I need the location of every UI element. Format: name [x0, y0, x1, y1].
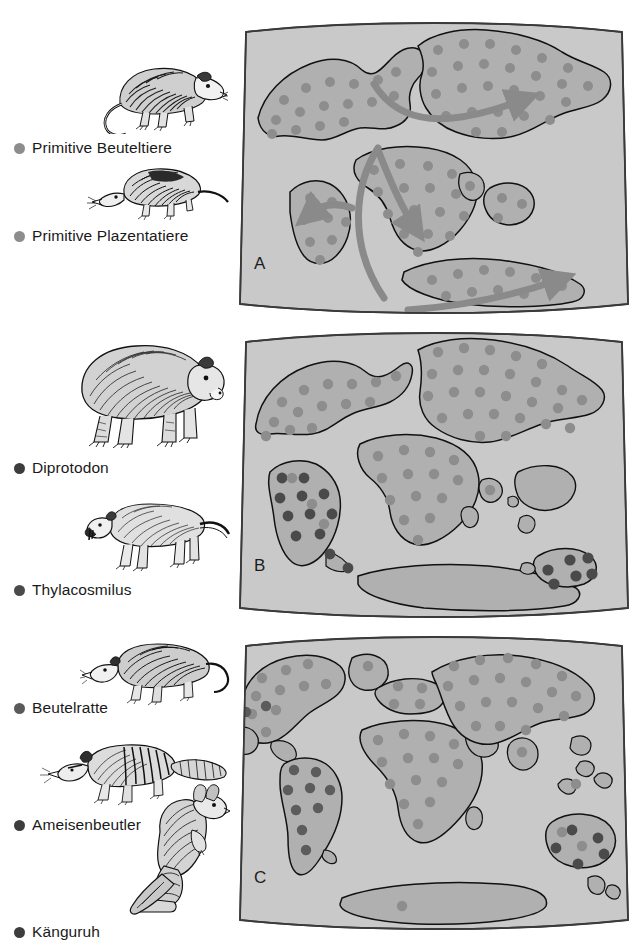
map-panel-c: C [232, 634, 636, 930]
legend-bullet-medium [14, 703, 25, 714]
legend-label: Känguruh [32, 923, 100, 941]
legend-label: Diprotodon [32, 459, 109, 477]
legend-label: Thylacosmilus [32, 581, 132, 599]
thylacosmilus-illustration [78, 490, 232, 572]
legend-item-primitive-beuteltiere: Primitive Beuteltiere [14, 139, 172, 157]
legend-label: Primitive Plazentatiere [32, 227, 189, 245]
opossum-illustration [96, 42, 228, 134]
map-panel-b: B [232, 332, 636, 618]
legend-item-primitive-plazentatiere: Primitive Plazentatiere [14, 227, 189, 245]
legend-item-thylacosmilus: Thylacosmilus [14, 581, 132, 599]
panel-letter-a: A [254, 254, 265, 274]
legend-column: Primitive Beuteltiere [0, 0, 232, 948]
legend-bullet-light [14, 143, 25, 154]
legend-bullet-dark [14, 463, 25, 474]
legend-bullet-dark [14, 585, 25, 596]
legend-bullet-dark [14, 927, 25, 938]
legend-label: Primitive Beuteltiere [32, 139, 172, 157]
legend-bullet-dark [14, 820, 25, 831]
opossum-c-illustration [80, 632, 230, 706]
diprotodon-illustration [66, 330, 226, 448]
legend-item-diprotodon: Diprotodon [14, 459, 109, 477]
map-panel-a: A [232, 22, 636, 314]
panel-letter-b: B [254, 556, 265, 576]
kangaroo-illustration [122, 780, 234, 922]
panel-letter-c: C [254, 868, 266, 888]
legend-item-kaenguruh: Känguruh [14, 923, 100, 941]
legend-bullet-light [14, 231, 25, 242]
legend-item-beutelratte: Beutelratte [14, 699, 108, 717]
shrew-illustration [86, 158, 230, 222]
legend-label: Beutelratte [32, 699, 108, 717]
continental-drift-figure: Primitive Beuteltiere [0, 0, 636, 948]
